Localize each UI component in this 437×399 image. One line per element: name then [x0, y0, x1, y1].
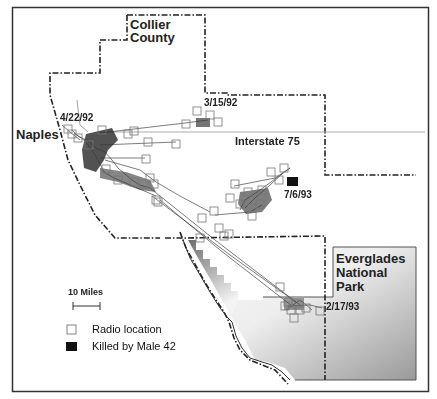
park-label-line3: Park — [336, 280, 364, 293]
map-canvas — [0, 0, 437, 399]
date-label-start: 4/22/92 — [60, 113, 93, 123]
kill-location-marker — [287, 177, 298, 186]
city-label: Naples — [16, 128, 59, 141]
county-label-line2: County — [130, 31, 175, 44]
legend-filled-square-icon — [66, 342, 77, 351]
date-label-south-cluster: 2/17/93 — [326, 302, 359, 312]
scale-bar-label: 10 Miles — [68, 288, 103, 297]
legend-radio-location-label: Radio location — [92, 324, 162, 335]
park-label-line2: National — [336, 266, 387, 279]
date-label-north-cluster: 3/15/92 — [204, 98, 237, 108]
park-label-line1: Everglades — [336, 252, 405, 265]
date-label-death: 7/6/93 — [284, 190, 312, 200]
telemetry-map: Collier County Naples Interstate 75 Ever… — [0, 0, 437, 399]
legend-killed-label: Killed by Male 42 — [92, 341, 176, 352]
interstate-label: Interstate 75 — [235, 136, 300, 147]
